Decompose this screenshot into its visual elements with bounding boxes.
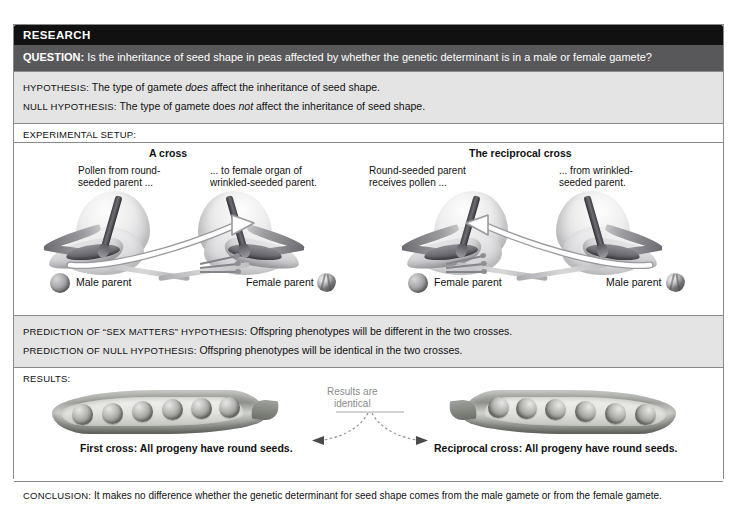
hypothesis-prefix: HYPOTHESIS:: [23, 82, 89, 93]
results-label: RESULTS:: [14, 368, 723, 384]
experimental-setup-canvas: A cross Pollen from round- seeded parent…: [14, 143, 723, 316]
pea-seed: [72, 404, 93, 425]
experimental-setup-header: EXPERIMENTAL SETUP:: [14, 124, 723, 143]
question-prefix: QUESTION:: [23, 51, 84, 63]
prediction-null-row: PREDICTION OF NULL HYPOTHESIS: Offspring…: [23, 341, 714, 360]
male-parent-label-right-panel: Male parent: [606, 276, 661, 288]
hypothesis-text-b: affect the inheritance of seed shape.: [208, 81, 380, 93]
pea-seed: [162, 399, 183, 420]
prediction-null-text: Offspring phenotypes will be identical i…: [197, 344, 463, 356]
prediction-sex-matters-row: PREDICTION OF “SEX MATTERS” HYPOTHESIS: …: [23, 322, 714, 341]
research-header-bar: RESEARCH: [14, 25, 723, 45]
pea-seed: [516, 398, 537, 419]
left-panel-callout-left: Pollen from round- seeded parent ...: [78, 165, 160, 189]
right-panel-title: The reciprocal cross: [469, 147, 572, 159]
hypothesis-row: HYPOTHESIS: The type of gamete does affe…: [23, 78, 714, 97]
pea-seed: [219, 397, 240, 418]
research-figure: RESEARCH QUESTION: Is the inheritance of…: [13, 24, 724, 479]
experimental-setup-label: EXPERIMENTAL SETUP:: [14, 124, 723, 142]
wrinkled-seed-icon-female-left-panel: [317, 273, 336, 292]
results-identical-note: Results are identical: [327, 386, 378, 410]
left-panel-title: A cross: [149, 147, 187, 159]
pea-seed: [575, 401, 596, 422]
null-hypothesis-text-b: affect the inheritance of seed shape.: [253, 100, 425, 112]
null-hypothesis-row: NULL HYPOTHESIS: The type of gamete does…: [23, 97, 714, 116]
hypothesis-emphasis: does: [185, 81, 208, 93]
hypothesis-text-a: The type of gamete: [89, 81, 185, 93]
pollen-transfer-arrow-right-panel: [454, 215, 654, 271]
conclusion-text: It makes no difference whether the genet…: [91, 490, 662, 501]
female-parent-label-right-panel: Female parent: [434, 276, 502, 288]
results-note-line-2: identical: [327, 398, 378, 410]
female-parent-label-left-panel: Female parent: [246, 276, 314, 288]
right-panel-callout-left: Round-seeded parent receives pollen ...: [369, 165, 466, 189]
right-panel-callout-right: ... from wrinkled- seeded parent.: [559, 165, 633, 189]
prediction-sex-matters-prefix: PREDICTION OF “SEX MATTERS” HYPOTHESIS:: [23, 326, 247, 337]
caption-first-cross: First cross: All progeny have round seed…: [80, 442, 293, 454]
research-label: RESEARCH: [23, 29, 91, 41]
results-note-line-1: Results are: [327, 386, 378, 398]
prediction-null-prefix: PREDICTION OF NULL HYPOTHESIS:: [23, 345, 197, 356]
conclusion-prefix: CONCLUSION:: [23, 490, 91, 501]
null-hypothesis-text-a: The type of gamete does: [117, 100, 239, 112]
predictions-section: PREDICTION OF “SEX MATTERS” HYPOTHESIS: …: [14, 316, 723, 368]
pod-first-cross: [52, 390, 266, 434]
round-seed-icon-male-left-panel: [50, 273, 70, 293]
male-parent-label-left-panel: Male parent: [76, 276, 131, 288]
pea-seed: [488, 397, 509, 418]
results-header: RESULTS:: [14, 368, 723, 384]
pod-reciprocal-cross: [462, 390, 676, 434]
question-text: Is the inheritance of seed shape in peas…: [84, 51, 652, 63]
hypothesis-section: HYPOTHESIS: The type of gamete does affe…: [14, 72, 723, 124]
results-identical-connector: [308, 410, 432, 452]
pea-seed: [102, 403, 123, 424]
wrinkled-seed-icon-male-right-panel: [666, 273, 685, 292]
pea-seed: [132, 401, 153, 422]
conclusion-section: CONCLUSION: It makes no difference wheth…: [14, 482, 723, 505]
null-hypothesis-emphasis: not: [238, 100, 253, 112]
pea-seed: [635, 404, 656, 425]
question-bar: QUESTION: Is the inheritance of seed sha…: [14, 45, 723, 72]
pea-seed: [191, 398, 212, 419]
pollen-transfer-arrow-left-panel: [66, 215, 266, 271]
pea-seed: [605, 403, 626, 424]
pea-seed: [545, 399, 566, 420]
null-hypothesis-prefix: NULL HYPOTHESIS:: [23, 101, 117, 112]
left-panel-callout-right: ... to female organ of wrinkled-seeded p…: [210, 165, 317, 189]
caption-reciprocal-cross: Reciprocal cross: All progeny have round…: [434, 442, 678, 454]
pod-tip: [251, 399, 279, 422]
round-seed-icon-female-right-panel: [408, 273, 428, 293]
results-canvas: Results are identical First cross: All p…: [14, 384, 723, 482]
prediction-sex-matters-text: Offspring phenotypes will be different i…: [247, 325, 512, 337]
